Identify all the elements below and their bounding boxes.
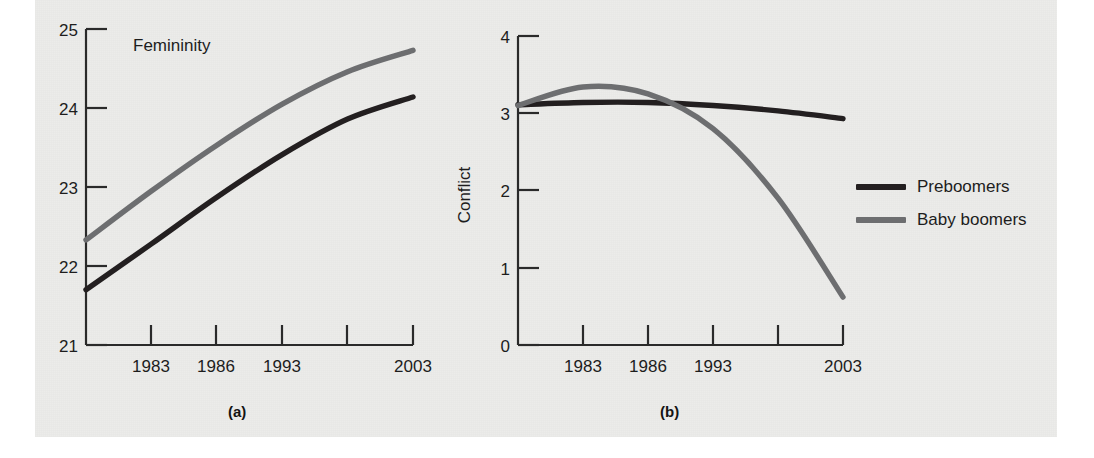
panel-a-ylabel-25: 25 (59, 21, 78, 40)
panel-b-xlabel-2003: 2003 (824, 357, 862, 376)
panel-b-ylabel-2: 2 (501, 182, 510, 201)
panel-b-y-axis-title: Conflict (455, 166, 474, 223)
legend-label-baby-boomers: Baby boomers (917, 210, 1027, 230)
panel-a-ylabel-21: 21 (59, 337, 78, 356)
series-line-baby-boomers (86, 50, 413, 240)
panel-b-xlabel-1986: 1986 (629, 357, 667, 376)
panel-b-ylabel-1: 1 (501, 260, 510, 279)
figure-container: 25 24 23 22 21 1983 1986 1993 2003 Femin… (0, 0, 1094, 458)
panel-a-ylabel-24: 24 (59, 100, 78, 119)
panel-a-caption: (a) (228, 403, 246, 420)
panel-a: 25 24 23 22 21 1983 1986 1993 2003 Femin… (0, 0, 470, 400)
legend: Preboomers Baby boomers (856, 170, 1086, 236)
legend-item-baby-boomers: Baby boomers (856, 203, 1086, 236)
legend-label-preboomers: Preboomers (917, 177, 1010, 197)
panel-a-xlabel-1993: 1993 (263, 357, 301, 376)
legend-swatch-preboomers (856, 184, 906, 190)
panel-b-xlabel-1993: 1993 (694, 357, 732, 376)
panel-b-caption: (b) (660, 403, 679, 420)
panel-b-ylabel-0: 0 (501, 337, 510, 356)
panel-a-series (86, 50, 413, 289)
series-line-baby-boomers (518, 86, 843, 297)
panel-a-xlabel-1983: 1983 (132, 357, 170, 376)
legend-swatch-baby-boomers (856, 217, 906, 223)
panel-a-xlabel-1986: 1986 (197, 357, 235, 376)
panel-b-ylabel-3: 3 (501, 105, 510, 124)
panel-b-xlabel-1983: 1983 (564, 357, 602, 376)
panel-a-ylabel-23: 23 (59, 179, 78, 198)
panel-b-series (518, 86, 843, 297)
panel-b-ylabel-4: 4 (501, 28, 510, 47)
panel-a-title: Femininity (133, 36, 211, 55)
panel-a-xlabel-2003: 2003 (394, 357, 432, 376)
panel-a-ylabel-22: 22 (59, 258, 78, 277)
panel-a-svg: 25 24 23 22 21 1983 1986 1993 2003 Femin… (0, 0, 470, 400)
legend-item-preboomers: Preboomers (856, 170, 1086, 203)
